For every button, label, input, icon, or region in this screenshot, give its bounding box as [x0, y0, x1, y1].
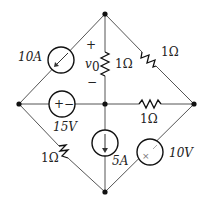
vs15-minus: − [64, 97, 74, 111]
node-left [16, 101, 21, 106]
node-top [102, 11, 107, 16]
node-bottom [102, 189, 107, 194]
wire-left-bottom-b [68, 158, 105, 192]
label-10a: 10A [18, 50, 42, 64]
v0-minus: − [87, 75, 97, 89]
resistor-center-right [139, 100, 161, 108]
label-5a: 5A [112, 154, 129, 168]
label-r-center-top: 1Ω [115, 57, 133, 71]
voltage-source-10v: × [137, 139, 163, 165]
circuit-diagram: 10A + v 0 − 1Ω 1Ω + − 15V 1Ω 1Ω 5A × 10V [0, 0, 207, 209]
resistor-top-right [141, 52, 156, 67]
current-source-5a [92, 130, 118, 156]
current-source-10a [48, 47, 74, 73]
v0-plus: + [86, 38, 96, 52]
label-r-center-right: 1Ω [140, 112, 158, 126]
label-15v: 15V [53, 120, 78, 134]
label-r-top-right: 1Ω [161, 45, 179, 59]
resistor-center-top [101, 52, 109, 76]
wire-top-right-a [105, 14, 142, 52]
node-right [191, 101, 196, 106]
v0-label: v [85, 57, 92, 71]
svg-text:×: × [142, 151, 150, 161]
vs15-plus: + [54, 97, 64, 111]
wire-top-right-b [156, 66, 194, 104]
node-center [102, 101, 107, 106]
label-r-left-bottom: 1Ω [41, 151, 59, 165]
label-10v: 10V [169, 146, 194, 160]
v0-sub: 0 [92, 60, 100, 74]
resistor-left-bottom [59, 145, 68, 158]
